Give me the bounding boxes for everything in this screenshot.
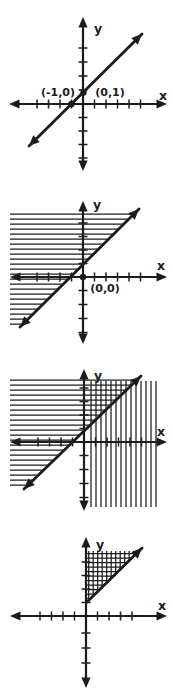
y-axis-up-arrow — [78, 17, 87, 28]
worksheet-figure: xy(-1,0)(0,1)xy(0,0)xyxy — [0, 0, 175, 692]
plotted-line — [87, 548, 142, 602]
y-axis-label: y — [94, 21, 102, 36]
x-axis-left-arrow — [10, 611, 21, 620]
graph-step1-line-through-points: xy(-1,0)(0,1) — [9, 17, 167, 171]
y-axis-up-arrow — [81, 537, 90, 548]
graph-step3-both-halfplanes: xy — [10, 368, 167, 511]
y-axis-up-arrow — [78, 201, 87, 212]
point-dot — [80, 89, 86, 95]
hatch-vertical — [91, 381, 156, 507]
point-dot — [68, 101, 74, 107]
graph-step4-solution-region: xy — [10, 537, 167, 688]
x-axis-label: x — [159, 88, 167, 103]
point-label: (0,0) — [90, 282, 120, 295]
y-axis-label: y — [94, 368, 102, 383]
figure-canvas: xy(-1,0)(0,1)xy(0,0)xyxy — [0, 0, 175, 692]
x-axis-label: x — [158, 598, 166, 613]
y-axis-label: y — [93, 197, 101, 212]
x-axis-label: x — [157, 258, 165, 273]
plotted-line — [20, 209, 139, 327]
y-axis-up-arrow — [79, 369, 88, 380]
plotted-line — [24, 376, 141, 489]
point-dot — [80, 274, 86, 280]
x-axis-right-arrow — [157, 272, 168, 281]
point-label: (-1,0) — [41, 86, 75, 99]
y-axis-down-arrow — [78, 334, 87, 345]
x-axis-label: x — [157, 424, 165, 439]
graph-step2-halfplane-above-line: xy(0,0) — [10, 197, 167, 344]
y-axis-label: y — [96, 537, 104, 552]
point-label: (0,1) — [95, 86, 125, 99]
y-axis-down-arrow — [78, 161, 87, 172]
x-axis-left-arrow — [9, 99, 20, 108]
y-axis-down-arrow — [81, 678, 90, 689]
y-axis-down-arrow — [79, 501, 88, 512]
